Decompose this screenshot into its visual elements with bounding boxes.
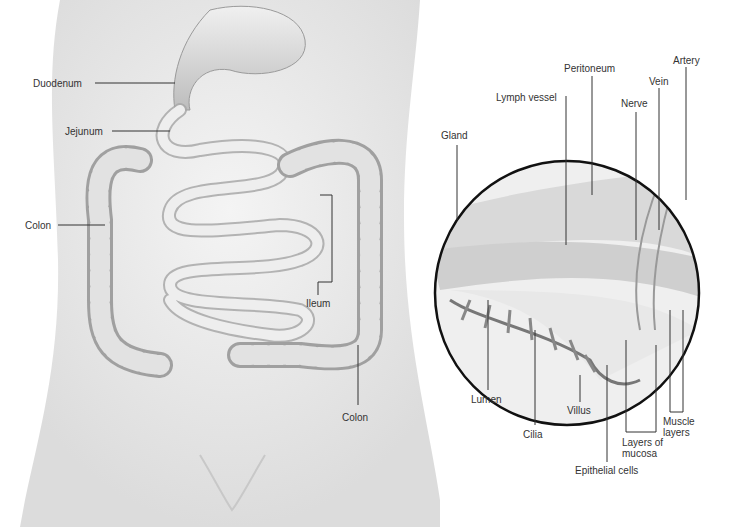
label-cilia: Cilia [523, 429, 542, 440]
label-lymph-vessel: Lymph vessel [496, 92, 557, 103]
label-epithelial-cells: Epithelial cells [575, 465, 638, 476]
label-vein: Vein [649, 76, 668, 87]
label-gland: Gland [441, 130, 468, 141]
label-muscle-layers-line2: layers [663, 427, 690, 438]
label-jejunum: Jejunum [65, 126, 103, 137]
label-lumen: Lumen [471, 394, 502, 405]
label-layers-of-mucosa-line2: mucosa [622, 448, 657, 459]
label-artery: Artery [673, 55, 700, 66]
label-villus: Villus [567, 405, 591, 416]
label-nerve: Nerve [621, 98, 648, 109]
label-muscle-layers-line1: Muscle [663, 416, 695, 427]
label-colon-right: Colon [342, 412, 368, 423]
label-colon-left: Colon [25, 220, 51, 231]
label-ileum: Ileum [306, 298, 330, 309]
label-peritoneum: Peritoneum [564, 63, 615, 74]
label-duodenum: Duodenum [33, 78, 82, 89]
label-layers-of-mucosa-line1: Layers of [622, 437, 663, 448]
